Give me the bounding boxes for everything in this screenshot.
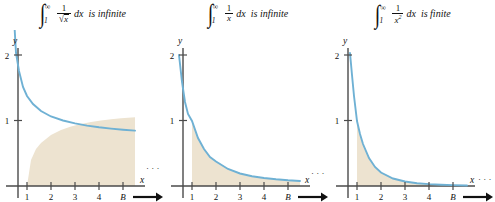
radical-icon: √ bbox=[59, 14, 64, 25]
verdict-text: is finite bbox=[421, 8, 451, 19]
x-tick-label-3: 3 bbox=[403, 192, 408, 202]
panel-inverse: ∫∞1 1xdxis infinite y x 2 1 1 2 3 4 B · … bbox=[165, 0, 330, 202]
upper-limit: ∞ bbox=[380, 4, 385, 12]
x-tick-label-B: B bbox=[450, 192, 456, 202]
x-tick-label-B: B bbox=[285, 192, 291, 202]
x-tick-label-4: 4 bbox=[97, 192, 102, 202]
fraction-one-over-x: 1x bbox=[225, 4, 234, 24]
x-tick-label-4: 4 bbox=[427, 192, 432, 202]
shaded-area bbox=[27, 117, 135, 186]
formula-inverse: ∫∞1 1xdxis infinite bbox=[165, 4, 330, 24]
ellipsis-marker: · · · bbox=[146, 163, 160, 173]
fraction-one-over-sqrt-x: 1√x bbox=[57, 4, 71, 25]
fraction-numerator: 1 bbox=[225, 4, 234, 13]
shaded-area bbox=[357, 121, 465, 186]
lower-limit: 1 bbox=[44, 17, 48, 25]
x-tick-label-2: 2 bbox=[49, 192, 54, 202]
x-axis-label: x bbox=[469, 175, 475, 185]
panel-inverse-square: ∫∞1 1x2dxis finite y x 2 1 1 2 3 4 B · ·… bbox=[330, 0, 495, 202]
fraction-denominator: x2 bbox=[392, 13, 403, 25]
verdict-text: is infinite bbox=[251, 8, 289, 19]
differential-dx: dx bbox=[74, 8, 83, 19]
x-axis-arrow-icon bbox=[463, 193, 493, 202]
y-axis-label: y bbox=[177, 36, 183, 46]
x-tick-label-3: 3 bbox=[73, 192, 78, 202]
y-axis-label: y bbox=[342, 36, 348, 46]
graph-inverse: y x 2 1 1 2 3 4 B · · · bbox=[165, 30, 330, 202]
fraction-numerator: 1 bbox=[57, 4, 71, 13]
y-tick-label-2: 2 bbox=[5, 51, 10, 61]
x-axis-arrow-icon bbox=[133, 193, 163, 202]
x-tick-label-4: 4 bbox=[262, 192, 267, 202]
x-tick-label-1: 1 bbox=[190, 192, 195, 202]
x-tick-label-1: 1 bbox=[25, 192, 30, 202]
integral-limits: ∞1 bbox=[46, 4, 55, 24]
formula-sqrt: ∫∞1 1√xdxis infinite bbox=[0, 4, 165, 25]
y-axis-label: y bbox=[12, 36, 18, 46]
y-tick-label-1: 1 bbox=[335, 116, 340, 126]
ellipsis-marker: · · · bbox=[311, 168, 325, 178]
x-tick-label-1: 1 bbox=[355, 192, 360, 202]
x-tick-label-2: 2 bbox=[214, 192, 219, 202]
y-tick-label-2: 2 bbox=[335, 51, 340, 61]
graph-inverse-square: y x 2 1 1 2 3 4 B · · · bbox=[330, 30, 495, 202]
fraction-denominator: x bbox=[225, 13, 234, 23]
differential-dx: dx bbox=[236, 8, 245, 19]
lower-limit: 1 bbox=[212, 17, 216, 25]
fraction-denominator: √x bbox=[57, 13, 71, 24]
lower-limit: 1 bbox=[379, 17, 383, 25]
integral-limits: ∞1 bbox=[381, 5, 390, 25]
y-tick-label-1: 1 bbox=[5, 116, 10, 126]
y-tick-label-1: 1 bbox=[170, 116, 175, 126]
x-tick-label-2: 2 bbox=[379, 192, 384, 202]
x-tick-label-B: B bbox=[120, 192, 126, 202]
y-tick-label-2: 2 bbox=[170, 51, 175, 61]
graph-sqrt: y x 2 1 1 2 3 4 B · · · bbox=[0, 30, 165, 202]
integral-expression-inverse: ∫∞1 bbox=[207, 4, 223, 24]
radicand: x bbox=[64, 14, 69, 24]
upper-limit: ∞ bbox=[45, 3, 50, 11]
formula-inverse-square: ∫∞1 1x2dxis finite bbox=[330, 4, 495, 26]
integral-limits: ∞1 bbox=[214, 4, 223, 24]
integral-expression-sqrt: ∫∞1 bbox=[39, 4, 55, 24]
fraction-numerator: 1 bbox=[392, 4, 403, 13]
x-tick-label-3: 3 bbox=[238, 192, 243, 202]
integral-comparison-figure: ∫∞1 1√xdxis infinite y x 2 1 1 2 3 4 B ·… bbox=[0, 0, 495, 202]
fraction-one-over-x-squared: 1x2 bbox=[392, 4, 403, 26]
upper-limit: ∞ bbox=[213, 3, 218, 11]
differential-dx: dx bbox=[406, 8, 415, 19]
x-axis-label: x bbox=[304, 175, 310, 185]
x-axis-label: x bbox=[139, 175, 145, 185]
verdict-text: is infinite bbox=[89, 8, 127, 19]
panel-sqrt: ∫∞1 1√xdxis infinite y x 2 1 1 2 3 4 B ·… bbox=[0, 0, 165, 202]
curve-1-over-sqrt-x bbox=[13, 30, 135, 131]
denominator-exponent: 2 bbox=[398, 14, 401, 20]
integral-expression-inverse-square: ∫∞1 bbox=[374, 5, 390, 25]
ellipsis-marker: · · · bbox=[478, 174, 492, 184]
x-axis-arrow-icon bbox=[298, 193, 328, 202]
